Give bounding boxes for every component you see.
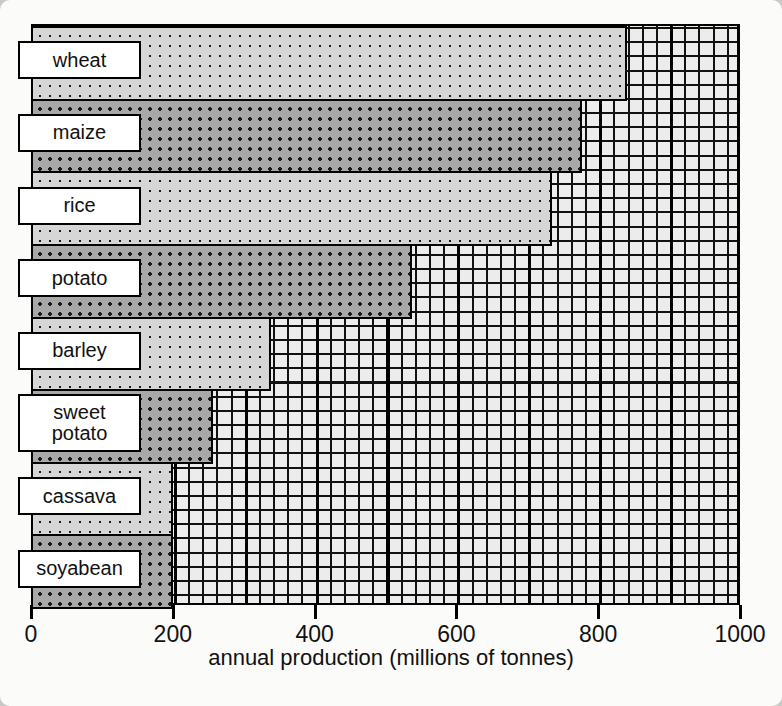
bar-label-sweet-potato: sweet potato xyxy=(18,394,141,452)
bar-label-wheat: wheat xyxy=(18,41,141,79)
x-tick-label-600: 600 xyxy=(437,621,475,648)
plot-area xyxy=(31,24,740,605)
bar-label-rice: rice xyxy=(18,187,141,225)
x-tick-800 xyxy=(597,605,600,619)
bar-label-cassava: cassava xyxy=(18,477,141,515)
x-tick-label-800: 800 xyxy=(579,621,617,648)
x-axis-label: annual production (millions of tonnes) xyxy=(0,645,782,671)
x-tick-600 xyxy=(455,605,458,619)
bar-label-barley: barley xyxy=(18,332,141,370)
x-tick-200 xyxy=(172,605,175,619)
x-tick-label-200: 200 xyxy=(154,621,192,648)
x-tick-0 xyxy=(30,605,33,619)
bar-label-maize: maize xyxy=(18,114,141,152)
bar-label-potato: potato xyxy=(18,259,141,297)
bar-label-soyabean: soyabean xyxy=(18,550,141,588)
x-tick-1000 xyxy=(739,605,742,619)
x-tick-400 xyxy=(314,605,317,619)
x-tick-label-1000: 1000 xyxy=(714,621,765,648)
x-axis: 02004006008001000 xyxy=(31,605,740,606)
chart-figure: wheatmaizericepotatobarleysweet potatoca… xyxy=(0,0,782,706)
x-tick-label-400: 400 xyxy=(295,621,333,648)
x-tick-label-0: 0 xyxy=(25,621,38,648)
